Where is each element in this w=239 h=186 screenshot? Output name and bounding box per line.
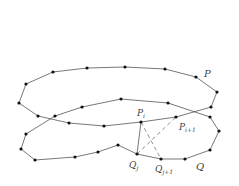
- label-q-j: Qj: [129, 160, 138, 172]
- vertex-point: [194, 75, 197, 78]
- vertex-point: [51, 70, 54, 73]
- vertex-point: [17, 101, 20, 104]
- edge-qj-pi: [137, 122, 141, 154]
- vertex-point: [166, 101, 169, 104]
- label-p-i-plus-1: Pi+1: [178, 122, 196, 133]
- vertex-point: [135, 152, 138, 155]
- vertex-point: [116, 143, 119, 146]
- dashed-qj-pi1: [137, 117, 176, 154]
- vertex-point: [209, 105, 212, 108]
- vertex-point: [24, 132, 27, 135]
- vertex-point: [215, 90, 218, 93]
- vertex-point: [85, 66, 88, 69]
- vertex-point: [24, 82, 27, 85]
- vertex-point: [80, 105, 83, 108]
- vertex-point: [208, 148, 211, 151]
- vertex-point: [123, 65, 126, 68]
- vertex-point: [183, 157, 186, 160]
- dashed-pi-qj1: [141, 122, 161, 159]
- vertex-point: [67, 121, 70, 124]
- label-q: Q: [196, 161, 204, 172]
- vertex-point: [102, 124, 105, 127]
- vertex-point: [174, 115, 177, 118]
- vertex-point: [159, 157, 162, 160]
- vertex-point: [36, 114, 39, 117]
- vertex-point: [19, 147, 22, 150]
- vertex-point: [53, 114, 56, 117]
- polygon-diagram: P Q Pi Pi+1 Qj Qj+1: [0, 0, 239, 186]
- label-p-i: Pi: [136, 108, 145, 119]
- vertex-point: [139, 120, 142, 123]
- vertex-point: [217, 129, 220, 132]
- vertex-point: [33, 158, 36, 161]
- label-p: P: [203, 68, 211, 79]
- vertex-point: [119, 97, 122, 100]
- vertex-point: [163, 67, 166, 70]
- vertex-point: [96, 150, 99, 153]
- label-q-j-plus-1: Qj+1: [155, 164, 173, 176]
- vertex-point: [208, 115, 211, 118]
- polygon-p: [19, 67, 217, 126]
- vertex-point: [73, 155, 76, 158]
